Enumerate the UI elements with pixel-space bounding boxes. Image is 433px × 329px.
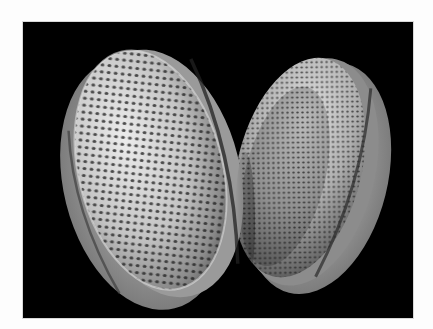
pollen-illustration [23,22,413,318]
sem-photo [23,22,413,318]
left-grain [34,30,270,318]
page [0,0,433,329]
